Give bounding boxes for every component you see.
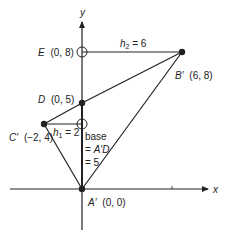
x-axis-label: x xyxy=(212,184,219,195)
label-C: C′ (−2, 4) xyxy=(9,132,53,143)
point-B xyxy=(179,49,185,55)
label-D: D (0, 5) xyxy=(38,94,74,105)
label-h2: h2 = 6 xyxy=(120,38,147,50)
label-base-line2: = A′D xyxy=(85,144,109,155)
point-C xyxy=(41,121,47,127)
label-B: B′ (6, 8) xyxy=(175,70,213,81)
label-base-line3: = 5 xyxy=(85,157,100,168)
y-axis-label: y xyxy=(79,7,86,18)
segment-D-C xyxy=(44,103,82,124)
coordinate-diagram: x y E (0, 8) D (0, 5) B′ (6, 8) C′ (−2, … xyxy=(0,0,228,231)
point-D xyxy=(79,100,85,106)
point-A xyxy=(79,186,85,192)
segment-D-B xyxy=(82,52,182,103)
label-h1: h1 = 2 xyxy=(53,127,80,139)
segment-A-B xyxy=(82,52,182,189)
label-base-line1: base xyxy=(85,131,107,142)
label-E: E (0, 8) xyxy=(38,47,74,58)
label-A: A′ (0, 0) xyxy=(87,197,126,208)
